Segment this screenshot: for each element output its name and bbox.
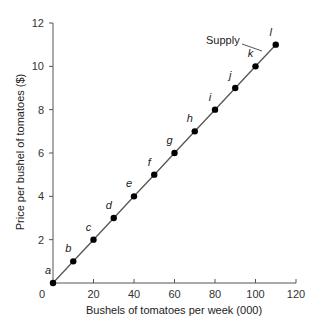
point-e bbox=[131, 193, 137, 199]
point-label-k: k bbox=[248, 47, 254, 59]
x-tick-label: 60 bbox=[168, 288, 180, 300]
point-f bbox=[151, 171, 157, 177]
point-k bbox=[252, 63, 258, 69]
point-label-e: e bbox=[126, 177, 132, 189]
point-label-a: a bbox=[45, 264, 51, 276]
y-tick-label: 12 bbox=[32, 17, 44, 29]
supply-chart: 02040608010012024681012 abcdefghijkl Bus… bbox=[0, 0, 318, 330]
y-tick-label: 8 bbox=[38, 104, 44, 116]
marks: abcdefghijkl bbox=[45, 26, 279, 287]
point-i bbox=[212, 106, 218, 112]
point-l bbox=[273, 41, 279, 47]
x-axis-label: Bushels of tomatoes per week (000) bbox=[86, 304, 262, 316]
point-d bbox=[111, 215, 117, 221]
point-h bbox=[192, 128, 198, 134]
x-tick-label: 80 bbox=[209, 288, 221, 300]
x-tick-label: 0 bbox=[39, 288, 45, 300]
y-tick-label: 6 bbox=[38, 147, 44, 159]
x-tick-label: 120 bbox=[287, 288, 305, 300]
point-c bbox=[90, 236, 96, 242]
point-j bbox=[232, 85, 238, 91]
y-tick-label: 10 bbox=[32, 60, 44, 72]
supply-annotation-label: Supply bbox=[206, 34, 240, 46]
point-b bbox=[70, 258, 76, 264]
y-tick-label: 4 bbox=[38, 190, 44, 202]
point-label-h: h bbox=[187, 112, 193, 124]
point-g bbox=[171, 150, 177, 156]
x-tick-label: 20 bbox=[87, 288, 99, 300]
point-label-i: i bbox=[209, 91, 212, 103]
point-label-c: c bbox=[86, 221, 92, 233]
point-a bbox=[50, 280, 56, 286]
x-tick-label: 100 bbox=[246, 288, 264, 300]
axes: 02040608010012024681012 bbox=[32, 17, 305, 300]
point-label-l: l bbox=[270, 26, 273, 38]
point-label-b: b bbox=[65, 242, 71, 254]
supply-curve bbox=[53, 45, 276, 283]
point-label-f: f bbox=[148, 156, 152, 168]
x-tick-label: 40 bbox=[128, 288, 140, 300]
point-label-j: j bbox=[227, 69, 232, 81]
y-tick-label: 2 bbox=[38, 234, 44, 246]
y-axis-label: Price per bushel of tomatoes ($) bbox=[14, 74, 26, 231]
point-label-g: g bbox=[166, 134, 173, 146]
point-label-d: d bbox=[106, 199, 113, 211]
